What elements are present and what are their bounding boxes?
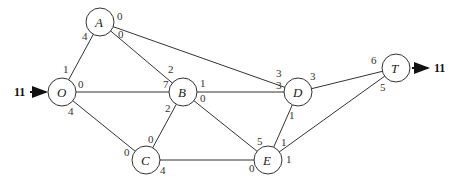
edge-O-C [62,92,146,160]
edge-label-A-D-at-D: 3 [276,67,282,79]
node-label: B [178,85,186,100]
node-C: C [132,146,160,174]
node-B: B [169,78,197,106]
edge-E-T [268,68,396,160]
edge-label-O-A-at-A: 4 [82,30,88,42]
edge-label-B-D-at-D: 3 [276,79,282,91]
edge-label-B-C-at-C: 0 [148,133,154,145]
edge-labels: 1 4 0 2 0 3 0 7 4 0 2 0 1 3 0 5 4 0 1 1 … [63,10,386,176]
edge-label-E-T-at-E: 1 [286,153,292,165]
edge-label-O-B-at-O: 0 [78,78,84,90]
edge-B-E [183,92,268,160]
edges [62,22,396,160]
edge-label-O-B-at-B: 7 [163,78,169,90]
node-E: E [254,146,282,174]
edge-A-B [100,22,183,92]
node-O: O [48,78,76,106]
edge-label-D-T-at-T: 6 [371,54,377,66]
node-label: T [391,61,399,76]
node-label: C [141,153,150,168]
edge-label-C-E-at-C: 4 [160,164,166,176]
edge-label-D-E-at-D: 1 [289,109,295,121]
edge-label-O-C-at-O: 4 [68,105,74,117]
edge-label-A-B-at-B: 2 [168,63,174,75]
edge-label-D-T-at-D: 3 [310,70,316,82]
node-label: O [57,85,67,100]
edge-label-B-E-at-E: 5 [257,135,263,147]
edge-label-B-C-at-B: 2 [165,102,171,114]
network-diagram: 11 11 1 4 0 2 0 3 0 7 4 0 2 0 1 3 0 5 4 … [0,0,454,184]
edge-label-A-D-at-A: 0 [117,10,123,22]
node-label: E [262,153,271,168]
edge-label-D-E-at-E: 1 [281,136,287,148]
edge-label-A-B-at-A: 0 [118,28,124,40]
edge-label-O-C-at-C: 0 [124,146,130,158]
edge-label-E-T-at-T: 5 [380,81,386,93]
node-D: D [284,78,312,106]
node-T: T [382,54,410,82]
edge-label-B-D-at-B: 1 [200,77,206,89]
source-flow-label: 11 [14,85,25,99]
sink-arrow: 11 [412,61,445,75]
node-label: A [94,15,103,30]
sink-flow-label: 11 [434,61,445,75]
node-label: D [292,85,303,100]
edge-label-B-E-at-B: 0 [200,92,206,104]
node-A: A [86,8,114,36]
source-arrow: 11 [14,85,46,99]
edge-label-O-A-at-O: 1 [63,63,69,75]
edge-A-D [100,22,298,92]
